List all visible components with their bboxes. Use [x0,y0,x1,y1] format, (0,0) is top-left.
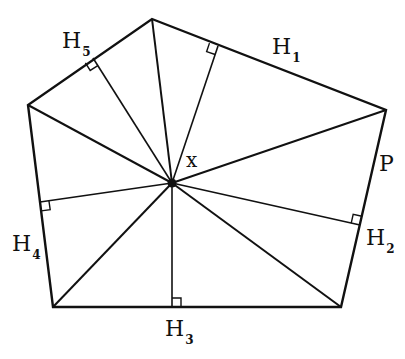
label-h5-sub: 5 [82,45,90,59]
spoke-2 [172,110,386,183]
label-h3: H3 [165,318,194,340]
perpendicular-segments [40,46,360,307]
label-h1-main: H [272,34,291,59]
perpendicular-h5 [93,58,172,183]
right-angle-mark-h3 [172,298,181,307]
label-h3-sub: 3 [185,333,193,347]
label-p: P [379,153,394,175]
pentagon-outline [28,19,386,307]
label-h1-sub: 1 [292,51,300,65]
label-p-text: P [379,151,394,176]
label-h1: H1 [272,36,301,58]
label-h5: H5 [62,30,91,52]
label-h4-main: H [12,231,31,256]
spoke-1 [152,19,172,183]
label-h2-sub: 2 [386,242,394,256]
perpendicular-h4 [40,183,172,202]
label-h2: H2 [366,227,395,249]
spoke-4 [53,183,172,307]
label-h2-main: H [366,225,385,250]
label-h4-sub: 4 [32,248,40,262]
center-point-x [168,179,177,188]
label-h3-main: H [165,316,184,341]
label-x: x [186,150,197,170]
right-angle-mark-h1 [207,43,216,54]
label-h4: H4 [12,233,41,255]
pentagon-diagram [0,0,405,359]
vertex-spokes [28,19,386,307]
spoke-5 [28,105,172,183]
label-h5-main: H [62,28,81,53]
